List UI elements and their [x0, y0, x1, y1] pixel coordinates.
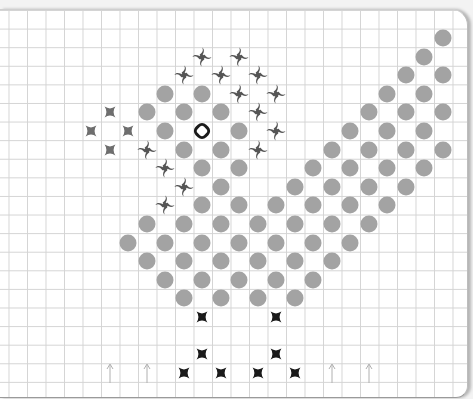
gray-circle-piece[interactable] — [305, 271, 322, 288]
gray-circle-piece[interactable] — [231, 123, 248, 140]
black-star-icon[interactable] — [196, 311, 208, 323]
gray-circle-piece[interactable] — [231, 234, 248, 251]
gray-circle-piece[interactable] — [268, 234, 285, 251]
swirl-icon[interactable] — [137, 140, 157, 160]
gray-circle-piece[interactable] — [231, 271, 248, 288]
gray-circle-piece[interactable] — [360, 141, 377, 158]
swirl-icon[interactable] — [174, 177, 194, 197]
gray-circle-piece[interactable] — [434, 30, 451, 47]
black-star-icon[interactable] — [270, 348, 282, 360]
up-arrow-icon — [328, 363, 336, 383]
gray-circle-piece[interactable] — [175, 216, 192, 233]
black-star-icon[interactable] — [270, 311, 282, 323]
gray-star-icon[interactable] — [104, 106, 116, 118]
swirl-icon[interactable] — [211, 65, 231, 85]
gray-circle-piece[interactable] — [231, 197, 248, 214]
gray-circle-piece[interactable] — [342, 123, 359, 140]
gray-circle-piece[interactable] — [286, 178, 303, 195]
gray-circle-piece[interactable] — [416, 160, 433, 177]
gray-circle-piece[interactable] — [305, 197, 322, 214]
gray-circle-piece[interactable] — [397, 178, 414, 195]
gray-circle-piece[interactable] — [397, 141, 414, 158]
gray-circle-piece[interactable] — [416, 123, 433, 140]
gray-circle-piece[interactable] — [268, 271, 285, 288]
gray-circle-piece[interactable] — [157, 123, 174, 140]
swirl-icon[interactable] — [248, 140, 268, 160]
gray-circle-piece[interactable] — [342, 160, 359, 177]
swirl-icon[interactable] — [266, 84, 286, 104]
gray-circle-piece[interactable] — [305, 160, 322, 177]
black-star-icon[interactable] — [215, 367, 227, 379]
gray-circle-piece[interactable] — [175, 104, 192, 121]
game-board[interactable] — [0, 9, 468, 398]
gray-circle-piece[interactable] — [323, 216, 340, 233]
gray-circle-piece[interactable] — [157, 234, 174, 251]
gray-circle-piece[interactable] — [212, 253, 229, 270]
swirl-icon[interactable] — [155, 158, 175, 178]
swirl-icon[interactable] — [248, 65, 268, 85]
gray-circle-piece[interactable] — [379, 123, 396, 140]
gray-circle-piece[interactable] — [379, 160, 396, 177]
gray-circle-piece[interactable] — [434, 104, 451, 121]
gray-circle-piece[interactable] — [379, 197, 396, 214]
selected-ring-cursor[interactable] — [191, 120, 212, 141]
gray-circle-piece[interactable] — [268, 197, 285, 214]
swirl-icon[interactable] — [248, 102, 268, 122]
gray-circle-piece[interactable] — [194, 271, 211, 288]
gray-circle-piece[interactable] — [434, 67, 451, 84]
gray-circle-piece[interactable] — [157, 85, 174, 102]
gray-circle-piece[interactable] — [249, 216, 266, 233]
gray-circle-piece[interactable] — [323, 178, 340, 195]
gray-circle-piece[interactable] — [360, 104, 377, 121]
gray-circle-piece[interactable] — [342, 234, 359, 251]
gray-circle-piece[interactable] — [212, 104, 229, 121]
gray-circle-piece[interactable] — [212, 290, 229, 307]
gray-circle-piece[interactable] — [342, 197, 359, 214]
gray-star-icon[interactable] — [104, 144, 116, 156]
swirl-icon[interactable] — [266, 121, 286, 141]
gray-circle-piece[interactable] — [212, 141, 229, 158]
gray-star-icon[interactable] — [122, 125, 134, 137]
gray-circle-piece[interactable] — [434, 141, 451, 158]
gray-circle-piece[interactable] — [286, 253, 303, 270]
swirl-icon[interactable] — [155, 195, 175, 215]
swirl-icon[interactable] — [229, 47, 249, 67]
gray-circle-piece[interactable] — [305, 234, 322, 251]
gray-circle-piece[interactable] — [397, 104, 414, 121]
gray-circle-piece[interactable] — [175, 290, 192, 307]
gray-circle-piece[interactable] — [157, 271, 174, 288]
gray-circle-piece[interactable] — [194, 197, 211, 214]
gray-circle-piece[interactable] — [360, 178, 377, 195]
gray-circle-piece[interactable] — [212, 178, 229, 195]
gray-circle-piece[interactable] — [397, 67, 414, 84]
black-star-icon[interactable] — [252, 367, 264, 379]
gray-circle-piece[interactable] — [379, 85, 396, 102]
swirl-icon[interactable] — [174, 65, 194, 85]
gray-circle-piece[interactable] — [138, 253, 155, 270]
gray-circle-piece[interactable] — [194, 160, 211, 177]
gray-circle-piece[interactable] — [249, 290, 266, 307]
gray-circle-piece[interactable] — [138, 104, 155, 121]
gray-circle-piece[interactable] — [249, 253, 266, 270]
swirl-icon[interactable] — [229, 84, 249, 104]
swirl-icon[interactable] — [192, 47, 212, 67]
black-star-icon[interactable] — [178, 367, 190, 379]
black-star-icon[interactable] — [196, 348, 208, 360]
black-star-icon[interactable] — [289, 367, 301, 379]
gray-circle-piece[interactable] — [323, 253, 340, 270]
gray-circle-piece[interactable] — [138, 216, 155, 233]
gray-circle-piece[interactable] — [194, 85, 211, 102]
gray-circle-piece[interactable] — [323, 141, 340, 158]
gray-circle-piece[interactable] — [231, 160, 248, 177]
gray-circle-piece[interactable] — [286, 290, 303, 307]
gray-circle-piece[interactable] — [120, 234, 137, 251]
gray-circle-piece[interactable] — [194, 234, 211, 251]
gray-circle-piece[interactable] — [212, 216, 229, 233]
gray-circle-piece[interactable] — [175, 253, 192, 270]
gray-circle-piece[interactable] — [360, 216, 377, 233]
gray-circle-piece[interactable] — [286, 216, 303, 233]
gray-circle-piece[interactable] — [416, 48, 433, 65]
gray-star-icon[interactable] — [85, 125, 97, 137]
gray-circle-piece[interactable] — [175, 141, 192, 158]
gray-circle-piece[interactable] — [416, 85, 433, 102]
